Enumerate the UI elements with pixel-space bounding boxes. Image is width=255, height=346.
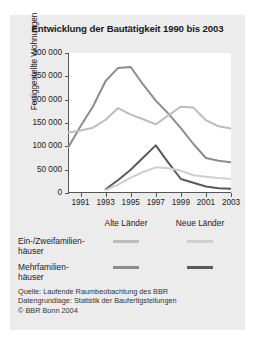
- legend-row-label-line2: häuser: [18, 272, 69, 282]
- legend-swatch: [113, 240, 139, 243]
- y-tick-label: 250 000: [16, 71, 62, 80]
- x-tick-label: 1999: [172, 198, 190, 207]
- legend-row-label: Mehrfamilien-häuser: [18, 262, 69, 282]
- chart-series-line: [68, 67, 231, 162]
- x-tick-label: 1991: [71, 198, 89, 207]
- source-line-quelle: Quelle: Laufende Raumbeobachtung des BBR: [18, 287, 243, 296]
- source-line-copyright: © BBR Bonn 2004: [18, 306, 243, 315]
- x-tick-mark: [106, 193, 107, 197]
- x-axis-tick-labels: 1991199319951997199920012003: [68, 198, 231, 210]
- legend-swatch: [187, 240, 213, 243]
- legend-row-label-line1: Mehrfamilien-: [18, 262, 69, 272]
- plot-area: [68, 53, 231, 193]
- chart-figure: Entwicklung der Bautätigkeit 1990 bis 20…: [10, 15, 245, 330]
- x-tick-mark: [181, 193, 182, 197]
- y-tick-label: 0: [16, 188, 62, 197]
- x-tick-mark: [206, 193, 207, 197]
- chart-lines: [68, 53, 231, 193]
- legend-column-header: Alte Länder: [105, 218, 148, 228]
- x-tick-mark: [81, 193, 82, 197]
- legend-row-label: Ein-/Zweifamilien-häuser: [18, 236, 85, 256]
- legend-row-label-line2: häuser: [18, 246, 85, 256]
- legend-column-header: Neue Länder: [176, 218, 224, 228]
- y-tick-label: 200 000: [16, 95, 62, 104]
- source-line-datengrundlage: Datengrundlage: Statistik der Baufertigs…: [18, 296, 243, 305]
- x-tick-mark: [231, 193, 232, 197]
- chart-title: Entwicklung der Bautätigkeit 1990 bis 20…: [10, 23, 245, 34]
- chart-series-line: [68, 107, 231, 133]
- x-tick-label: 1997: [147, 198, 165, 207]
- y-tick-label: 50 000: [16, 165, 62, 174]
- source-note: Quelle: Laufende Raumbeobachtung des BBR…: [18, 287, 243, 315]
- legend-row-label-line1: Ein-/Zweifamilien-: [18, 236, 85, 246]
- x-tick-mark: [131, 193, 132, 197]
- y-tick-label: 300 000: [16, 48, 62, 57]
- x-tick-label: 1995: [122, 198, 140, 207]
- legend-swatch: [113, 266, 139, 269]
- x-tick-mark: [156, 193, 157, 197]
- x-tick-label: 1993: [97, 198, 115, 207]
- x-tick-label: 2003: [222, 198, 240, 207]
- legend-swatch: [187, 266, 213, 269]
- chart-legend: Alte LänderNeue LänderEin-/Zweifamilien-…: [10, 218, 245, 278]
- x-tick-label: 2001: [197, 198, 215, 207]
- y-tick-label: 100 000: [16, 141, 62, 150]
- y-axis-tick-labels: 050 000100 000150 000200 000250 000300 0…: [16, 53, 62, 193]
- y-tick-label: 150 000: [16, 118, 62, 127]
